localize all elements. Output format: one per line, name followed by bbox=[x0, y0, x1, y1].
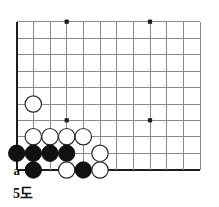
black-stone[interactable] bbox=[42, 145, 58, 161]
white-stone[interactable] bbox=[25, 96, 41, 112]
go-diagram-figure: a 5도 bbox=[0, 0, 219, 207]
figure-caption: 5도 bbox=[13, 182, 33, 202]
white-stone[interactable] bbox=[92, 145, 108, 161]
white-stone[interactable] bbox=[25, 129, 41, 145]
black-stone[interactable] bbox=[25, 162, 41, 178]
black-stone[interactable] bbox=[25, 145, 41, 161]
white-stone[interactable] bbox=[42, 129, 58, 145]
star-point-1 bbox=[148, 20, 152, 24]
star-point-0 bbox=[65, 20, 69, 24]
star-point-3 bbox=[148, 118, 152, 122]
go-board[interactable] bbox=[0, 0, 219, 207]
black-stone[interactable] bbox=[75, 162, 91, 178]
black-stone[interactable] bbox=[9, 145, 25, 161]
white-stone[interactable] bbox=[58, 162, 74, 178]
black-stone[interactable] bbox=[58, 145, 74, 161]
point-label-a: a bbox=[13, 164, 20, 177]
star-point-2 bbox=[65, 118, 69, 122]
white-stone[interactable] bbox=[92, 162, 108, 178]
white-stone[interactable] bbox=[75, 129, 91, 145]
white-stone[interactable] bbox=[58, 129, 74, 145]
